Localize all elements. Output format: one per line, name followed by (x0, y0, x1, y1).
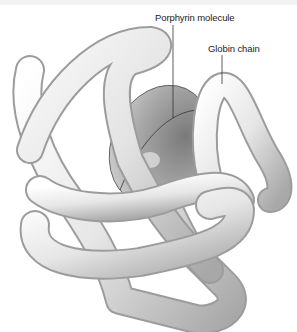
globin-label: Globin chain (208, 43, 260, 54)
porphyrin-label: Porphyrin molecule (155, 12, 235, 23)
